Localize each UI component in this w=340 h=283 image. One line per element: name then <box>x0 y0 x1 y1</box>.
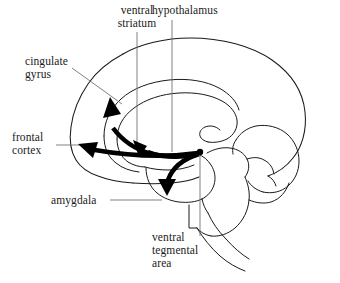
label-ventral-tegmental-area: ventral tegmental area <box>152 231 198 270</box>
pathway-vta-to-amygdala <box>158 154 199 196</box>
cerebellum <box>233 125 299 203</box>
pathway-vta-to-cingulate-gyrus <box>103 97 196 157</box>
ventral-tegmental-area-hub <box>197 149 203 155</box>
label-cingulate-gyrus: cingulate gyrus <box>25 55 68 81</box>
label-amygdala: amygdala <box>51 194 97 207</box>
label-hypothalamus: hypothalamus <box>152 4 218 17</box>
label-frontal-cortex: frontal cortex <box>12 131 43 157</box>
brain-diagram-figure: ventral striatum hypothalamus cingulate … <box>0 0 340 283</box>
